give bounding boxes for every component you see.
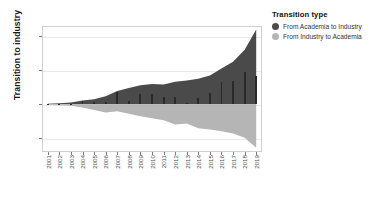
y-axis-label: Transition to industry [12, 0, 22, 110]
chart-root: Transition to industry -2000200400 20012… [0, 0, 386, 200]
bar [70, 104, 72, 105]
x-axis-tick-label: 2005 [91, 155, 98, 169]
x-axis-tick-label: 2007 [114, 155, 121, 169]
x-axis-tick-label: 2004 [79, 155, 86, 169]
legend-title: Transition type [272, 10, 386, 19]
area-series [48, 104, 256, 147]
x-axis-tick-label: 2019 [253, 155, 260, 169]
bar [174, 97, 176, 104]
bar [139, 94, 141, 105]
bar [221, 82, 223, 104]
area-series-group [42, 26, 262, 152]
x-axis-tick-label: 2014 [195, 155, 202, 169]
bar [232, 81, 234, 104]
x-axis-tick-label: 2003 [68, 155, 75, 169]
x-axis-tick-label: 2006 [102, 155, 109, 169]
x-axis-tick-label: 2009 [137, 155, 144, 169]
x-axis-tick-label: 2010 [149, 155, 156, 169]
bar [244, 72, 246, 104]
legend-item-label: From Academia to Industry [283, 23, 362, 30]
bar [255, 76, 257, 105]
x-axis-tick-label: 2011 [160, 155, 167, 168]
bar [186, 103, 188, 105]
bar [105, 102, 107, 104]
legend-swatch-circle-icon [272, 23, 279, 30]
bar [151, 94, 153, 104]
bar [58, 104, 60, 105]
plot-wrapper: Transition to industry -2000200400 20012… [0, 0, 268, 200]
bar [47, 104, 49, 105]
bar [128, 101, 130, 104]
x-axis-tick-label: 2012 [172, 155, 179, 169]
bar [197, 98, 199, 105]
legend-swatch-circle-icon [272, 33, 279, 40]
legend: Transition type From Academia to Industr… [272, 10, 386, 43]
bar [209, 93, 211, 105]
legend-item-label: From Industry to Academia [283, 33, 362, 40]
x-axis-tick-label: 2008 [126, 155, 133, 169]
x-axis-tick-label: 2016 [218, 155, 225, 169]
x-axis-tick-label: 2013 [184, 155, 191, 169]
bar [116, 92, 118, 104]
bar [163, 97, 165, 104]
legend-items: From Academia to IndustryFrom Industry t… [272, 23, 386, 40]
area-series [48, 29, 256, 104]
legend-item[interactable]: From Academia to Industry [272, 23, 386, 30]
x-axis-tick-label: 2015 [207, 155, 214, 169]
x-axis-tick-label: 2017 [230, 155, 237, 169]
x-axis-tick-label: 2002 [56, 155, 63, 169]
bar [93, 102, 95, 104]
x-axis-tick-label: 2001 [45, 155, 52, 169]
bar [82, 101, 84, 104]
x-axis-tick-label: 2018 [241, 155, 248, 169]
legend-item[interactable]: From Industry to Academia [272, 33, 386, 40]
